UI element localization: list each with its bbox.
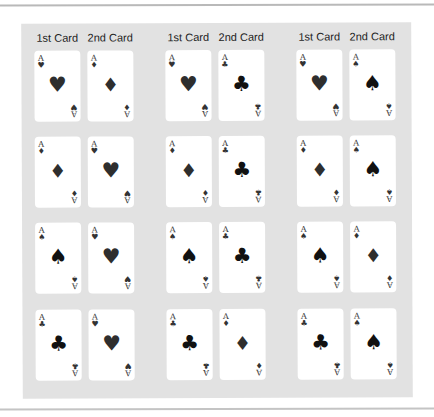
card-second-diamonds-ace: A ♦ ♦ A ♦ [219,309,265,380]
card-corner-bottom: A ♠ [386,188,393,202]
card-corner-top: A ♠ [353,139,360,153]
card-corner-top: A ♦ [222,313,229,327]
spades-icon: ♠ [352,60,359,67]
clubs-icon: ♣ [222,233,229,240]
diamonds-center-icon: ♦ [35,159,81,183]
card-second-hearts-ace: A ♥ ♥ A ♥ [88,222,134,293]
card-corner-bottom: A ♣ [255,103,262,117]
card-first-spades-ace: A ♠ ♠ A ♠ [297,221,343,292]
clubs-icon: ♣ [203,362,210,369]
card-rank: A [71,111,78,118]
card-corner-bottom: A ♣ [255,189,262,203]
card-corner-top: A ♦ [353,225,360,239]
card-second-clubs-ace: A ♣ ♣ A ♣ [218,50,264,121]
card-corner-top: A ♦ [38,141,45,155]
hearts-center-icon: ♥ [296,71,342,95]
diamonds-icon: ♦ [300,147,307,154]
card-second-hearts-ace: A ♥ ♥ A ♥ [88,136,134,207]
clubs-icon: ♣ [255,189,262,196]
card-corner-top: A ♦ [300,140,307,154]
diamonds-icon: ♦ [71,190,78,197]
card-second-hearts-ace: A ♥ ♥ A ♥ [88,309,134,380]
card-corner-bottom: A ♠ [333,274,340,288]
card-corner-bottom: A ♣ [255,275,262,289]
diamonds-icon: ♦ [38,148,45,155]
hearts-icon: ♥ [91,234,98,241]
header-1st-card: 1st Card [30,32,84,44]
spades-icon: ♠ [387,361,394,368]
hearts-icon: ♥ [91,148,98,155]
card-corner-bottom: A ♦ [333,188,340,202]
bottom-rule [0,407,434,410]
card-corner-top: A ♣ [222,226,229,240]
card-second-diamonds-ace: A ♦ ♦ A ♦ [350,221,396,292]
spades-icon: ♠ [386,188,393,195]
diamonds-center-icon: ♦ [350,243,396,267]
card-corner-top: A ♥ [91,314,98,328]
diamonds-icon: ♦ [353,232,360,239]
top-rule [0,3,434,6]
hearts-icon: ♥ [124,189,131,196]
hearts-center-icon: ♥ [89,331,135,355]
clubs-center-icon: ♣ [219,244,265,268]
card-corner-bottom: A ♣ [203,362,210,376]
card-rank: A [72,370,79,377]
clubs-icon: ♣ [38,321,45,328]
diamonds-center-icon: ♦ [220,331,266,355]
clubs-center-icon: ♣ [167,331,213,355]
diamonds-center-icon: ♦ [297,157,343,181]
card-first-hearts-ace: A ♥ ♥ A ♥ [34,51,80,122]
card-corner-top: A ♣ [300,313,307,327]
spades-center-icon: ♠ [297,243,343,267]
card-corner-bottom: A ♦ [202,189,209,203]
header-1st-card: 1st Card [292,30,346,42]
spades-center-icon: ♠ [350,157,396,181]
card-corner-bottom: A ♥ [202,103,209,117]
card-corner-top: A ♦ [169,140,176,154]
clubs-center-icon: ♣ [36,332,82,356]
card-corner-top: A ♠ [300,226,307,240]
spades-icon: ♠ [38,234,45,241]
hearts-icon: ♥ [37,62,44,69]
card-first-clubs-ace: A ♣ ♣ A ♣ [297,308,343,379]
card-corner-top: A ♣ [222,140,229,154]
diamonds-icon: ♦ [256,362,263,369]
card-corner-top: A ♦ [90,55,97,69]
hearts-icon: ♥ [71,104,78,111]
diamonds-icon: ♦ [222,320,229,327]
diamonds-icon: ♦ [90,62,97,69]
card-rank: A [255,110,262,117]
clubs-icon: ♣ [255,103,262,110]
header-2nd-card: 2nd Card [345,30,399,42]
header-2nd-card: 2nd Card [214,31,268,43]
diamonds-icon: ♦ [386,274,393,281]
card-first-spades-ace: A ♠ ♠ A ♠ [35,223,81,294]
spades-icon: ♠ [386,102,393,109]
diamonds-icon: ♦ [333,188,340,195]
header-1st-card: 1st Card [161,31,215,43]
diamonds-center-icon: ♦ [87,72,133,96]
clubs-center-icon: ♣ [219,158,265,182]
card-pairs-panel: 1st Card2nd Card A ♥ ♥ A ♥ A ♦ ♦ A ♦ A ♦… [21,22,413,399]
card-second-clubs-ace: A ♣ ♣ A ♣ [219,136,265,207]
card-rank: A [202,282,209,289]
card-second-spades-ace: A ♠ ♠ A ♠ [350,135,396,206]
hearts-icon: ♥ [333,102,340,109]
card-rank: A [333,195,340,202]
hearts-center-icon: ♥ [88,158,134,182]
card-second-diamonds-ace: A ♦ ♦ A ♦ [87,50,133,121]
hearts-icon: ♥ [125,362,132,369]
diamonds-icon: ♦ [169,147,176,154]
clubs-icon: ♣ [169,320,176,327]
card-rank: A [333,281,340,288]
card-corner-top: A ♠ [38,227,45,241]
hearts-icon: ♥ [299,61,306,68]
card-corner-top: A ♠ [169,226,176,240]
card-rank: A [386,195,393,202]
card-corner-top: A ♣ [169,313,176,327]
clubs-icon: ♣ [222,147,229,154]
hearts-center-icon: ♥ [165,72,211,96]
card-corner-top: A ♥ [91,141,98,155]
card-second-spades-ace: A ♠ ♠ A ♠ [349,49,395,120]
spades-center-icon: ♠ [166,244,212,268]
